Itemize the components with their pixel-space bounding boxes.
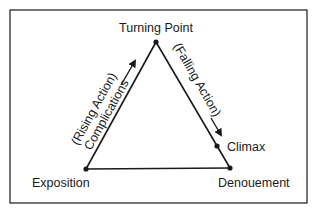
denouement-label: Denouement xyxy=(218,176,290,190)
turning-point-label: Turning Point xyxy=(119,21,193,35)
turning-point-dot xyxy=(153,39,158,44)
plot-diagram: Turning Point Exposition Denouement Clim… xyxy=(0,0,315,212)
falling-arrow xyxy=(211,118,221,135)
climax-dot xyxy=(214,143,219,148)
climax-label: Climax xyxy=(227,140,266,154)
exposition-label: Exposition xyxy=(32,176,90,190)
denouement-dot xyxy=(227,165,232,170)
exposition-dot xyxy=(83,166,88,171)
frame-border xyxy=(10,10,307,203)
base-edge xyxy=(86,168,230,169)
